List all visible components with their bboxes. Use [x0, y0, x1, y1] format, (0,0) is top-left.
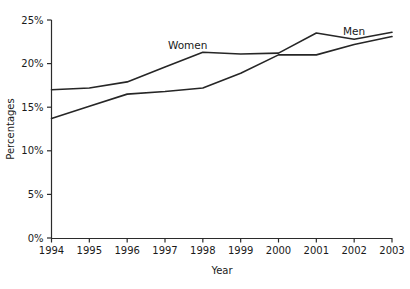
- data-series-group: [52, 32, 393, 118]
- y-tick-label: 25%: [21, 15, 43, 26]
- series-annotations: WomenMen: [168, 25, 365, 51]
- x-tick-label: 1995: [77, 245, 102, 256]
- x-axis-tick-labels: 1994199519961997199819992000200120022003: [39, 245, 405, 256]
- series-line-men: [52, 37, 393, 119]
- y-axis-ticks: [47, 20, 52, 238]
- x-tick-label: 2002: [341, 245, 366, 256]
- y-tick-label: 0%: [28, 233, 44, 244]
- x-axis: 1994199519961997199819992000200120022003: [39, 238, 405, 256]
- y-axis: 0%5%10%15%20%25%: [21, 15, 51, 244]
- y-tick-label: 15%: [21, 102, 43, 113]
- y-tick-label: 20%: [21, 58, 43, 69]
- x-axis-title: Year: [210, 265, 233, 276]
- chart-canvas: 0%5%10%15%20%25% 19941995199619971998199…: [0, 0, 410, 289]
- series-label-women: Women: [168, 39, 208, 51]
- x-tick-label: 1994: [39, 245, 64, 256]
- x-tick-label: 2001: [304, 245, 329, 256]
- x-tick-label: 2000: [266, 245, 291, 256]
- y-axis-tick-labels: 0%5%10%15%20%25%: [21, 15, 43, 244]
- y-axis-title: Percentages: [5, 98, 16, 159]
- x-tick-label: 2003: [379, 245, 404, 256]
- x-tick-label: 1998: [190, 245, 215, 256]
- x-tick-label: 1996: [114, 245, 139, 256]
- x-tick-label: 1997: [152, 245, 177, 256]
- line-chart: 0%5%10%15%20%25% 19941995199619971998199…: [0, 0, 410, 289]
- y-tick-label: 5%: [28, 189, 44, 200]
- x-tick-label: 1999: [228, 245, 253, 256]
- series-label-men: Men: [343, 25, 365, 37]
- y-tick-label: 10%: [21, 145, 43, 156]
